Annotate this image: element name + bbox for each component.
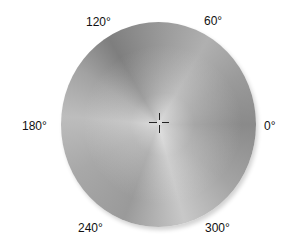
label-300: 300° bbox=[205, 222, 230, 234]
label-180: 180° bbox=[22, 120, 47, 132]
crosshair-icon[interactable] bbox=[149, 113, 169, 133]
label-0: 0° bbox=[264, 120, 275, 132]
label-240: 240° bbox=[78, 222, 103, 234]
label-120: 120° bbox=[86, 16, 111, 28]
label-60: 60° bbox=[204, 15, 222, 27]
